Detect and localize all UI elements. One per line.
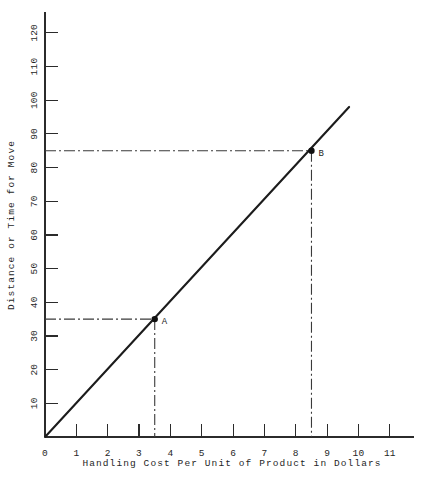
x-axis-tick-label: 0 xyxy=(42,448,48,459)
x-axis-tick-label: 7 xyxy=(261,448,267,459)
x-axis-tick-label: 10 xyxy=(353,448,365,459)
y-axis-tick-label: 60 xyxy=(29,229,40,241)
data-point-label: A xyxy=(162,317,168,327)
y-axis-tick-label: 10 xyxy=(29,397,40,409)
x-axis-tick-label: 2 xyxy=(105,448,111,459)
line-chart: 102030405060708090100110120 012345678910… xyxy=(0,0,427,485)
y-axis-tick-label: 120 xyxy=(29,24,40,42)
y-axis-tick-label: 20 xyxy=(29,364,40,376)
data-point-marker xyxy=(152,316,158,322)
x-axis-tick-label: 4 xyxy=(167,448,173,459)
y-axis-tick-label: 50 xyxy=(29,263,40,275)
chart-background xyxy=(0,0,427,485)
x-axis-tick-label: 11 xyxy=(384,448,396,459)
y-axis-tick-label: 30 xyxy=(29,330,40,342)
x-axis-tick-label: 3 xyxy=(136,448,142,459)
data-point-label: B xyxy=(318,149,324,159)
chart-container: 102030405060708090100110120 012345678910… xyxy=(0,0,427,485)
y-axis-tick-label: 40 xyxy=(29,296,40,308)
y-axis-tick-label: 90 xyxy=(29,128,40,140)
x-axis-title: Handling Cost Per Unit of Product in Dol… xyxy=(82,458,381,469)
y-axis-tick-label: 70 xyxy=(29,195,40,207)
y-axis-title: Distance or Time for Move xyxy=(6,140,17,310)
x-axis-tick-label: 9 xyxy=(324,448,330,459)
data-point-marker xyxy=(308,148,314,154)
y-axis-tick-label: 100 xyxy=(29,91,40,109)
x-axis-tick-label: 1 xyxy=(73,448,79,459)
x-axis-tick-label: 5 xyxy=(199,448,205,459)
y-axis-tick-label: 110 xyxy=(29,58,40,76)
x-axis-tick-label: 8 xyxy=(293,448,299,459)
x-axis-tick-label: 6 xyxy=(230,448,236,459)
y-axis-tick-label: 80 xyxy=(29,162,40,174)
